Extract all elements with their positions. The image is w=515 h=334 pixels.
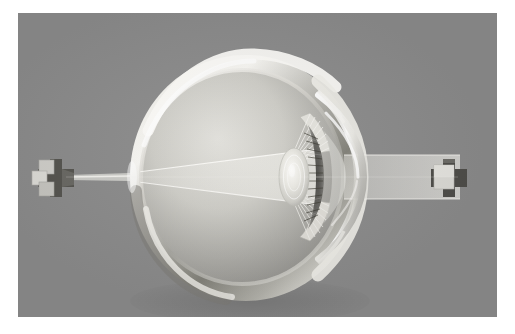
illustration-canvas — [18, 13, 497, 317]
figure-root — [0, 0, 515, 334]
image-marker-face-bottom — [39, 182, 54, 196]
image-cross-marker — [32, 159, 74, 197]
eye-cross-section-icon — [18, 13, 497, 317]
